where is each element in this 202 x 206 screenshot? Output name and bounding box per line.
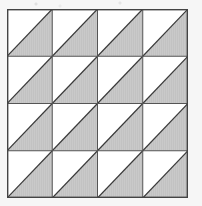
tiling-svg <box>7 9 188 198</box>
scan-noise-artifact <box>0 0 202 9</box>
figure-root <box>0 0 202 206</box>
tiling-grid <box>7 9 188 198</box>
